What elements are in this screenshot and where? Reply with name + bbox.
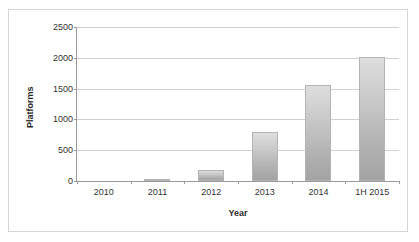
x-axis-tick-mark: [131, 181, 132, 184]
x-axis-title: Year: [77, 208, 399, 218]
plot-area: 05001000150020002500 2010201120122013201…: [77, 27, 399, 181]
x-axis-tick-mark: [399, 181, 400, 184]
y-axis-tick-label: 2000: [53, 53, 73, 63]
bar-category-slot: 2013: [238, 27, 292, 181]
y-axis-tick-label: 1000: [53, 114, 73, 124]
x-axis-tick-mark: [345, 181, 346, 184]
x-axis-tick-mark: [238, 181, 239, 184]
x-axis-tick-label: 2014: [308, 187, 328, 197]
x-axis-tick-label: 2013: [255, 187, 275, 197]
x-axis-tick-label: 2011: [148, 187, 167, 197]
y-axis-tick-label: 2500: [53, 22, 73, 32]
chart-figure: Platforms 05001000150020002500 201020112…: [8, 9, 408, 232]
y-axis-tick-label: 0: [68, 176, 73, 186]
x-axis-tick-mark: [184, 181, 185, 184]
bar-category-slot: 2014: [292, 27, 346, 181]
bar: [305, 85, 331, 181]
bar: [359, 57, 385, 181]
x-axis-tick-label: 2012: [201, 187, 221, 197]
y-axis-title: Platforms: [23, 62, 37, 152]
bar: [198, 170, 224, 181]
bar: [144, 179, 170, 181]
x-axis-tick-label: 2010: [94, 187, 114, 197]
y-axis-tick-label: 500: [58, 145, 73, 155]
bar: [252, 132, 278, 181]
bar-category-slot: 2011: [131, 27, 185, 181]
x-axis-tick-mark: [292, 181, 293, 184]
bar-category-slot: 2012: [184, 27, 238, 181]
bar-category-slot: 2010: [77, 27, 131, 181]
x-axis-tick-label: 1H 2015: [355, 187, 389, 197]
bar-category-slot: 1H 2015: [345, 27, 399, 181]
y-axis-tick-label: 1500: [53, 84, 73, 94]
x-axis-tick-mark: [77, 181, 78, 184]
